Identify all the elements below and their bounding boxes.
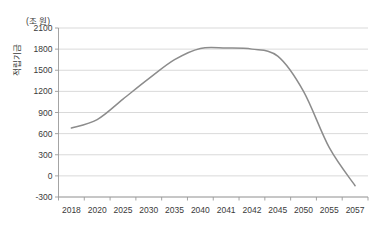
x-tick-label: 2050	[294, 205, 313, 215]
y-axis-tick-marks	[55, 28, 59, 197]
y-tick-label: 1500	[34, 65, 53, 75]
x-axis-tick-labels: 2018202020252030203520402041204220452050…	[62, 205, 365, 215]
y-tick-label: 1200	[34, 86, 53, 96]
gridlines	[59, 28, 369, 197]
x-tick-label: 2041	[217, 205, 236, 215]
y-tick-label: 1800	[34, 44, 53, 54]
y-tick-label: 300	[38, 150, 52, 160]
y-tick-label: -300	[35, 192, 52, 202]
x-tick-label: 2055	[320, 205, 339, 215]
x-tick-label: 2025	[114, 205, 133, 215]
y-tick-label: 2100	[34, 23, 53, 33]
pension-fund-reserve-chart: (조 원) 적립기금 21001800150012009006003000-30…	[0, 0, 376, 227]
x-axis-tick-marks	[59, 197, 369, 201]
y-tick-label: 900	[38, 108, 52, 118]
x-tick-label: 2057	[346, 205, 365, 215]
x-tick-label: 2018	[62, 205, 81, 215]
x-tick-label: 2020	[88, 205, 107, 215]
x-tick-label: 2040	[191, 205, 210, 215]
plot-area: 21001800150012009006003000-300 201820202…	[0, 0, 376, 227]
y-axis-tick-labels: 21001800150012009006003000-300	[34, 23, 53, 202]
x-tick-label: 2035	[165, 205, 184, 215]
y-tick-label: 600	[38, 129, 52, 139]
y-tick-label: 0	[48, 171, 53, 181]
data-series-line	[71, 47, 355, 185]
x-tick-label: 2042	[242, 205, 261, 215]
x-tick-label: 2030	[139, 205, 158, 215]
x-tick-label: 2045	[268, 205, 287, 215]
